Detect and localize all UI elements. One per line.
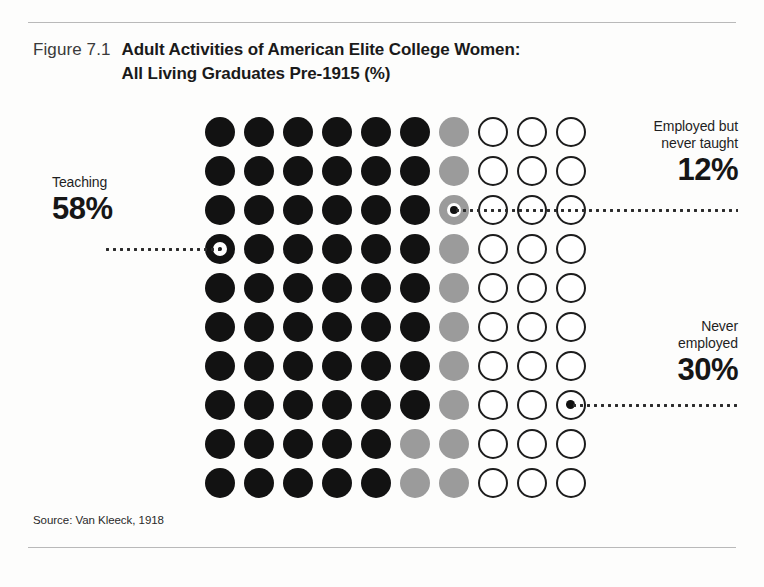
dot-cell [400,429,439,468]
dot-empty [478,429,508,459]
dot-filled [322,156,352,186]
dot-cell [205,234,244,273]
dot-cell [478,195,517,234]
dot-empty [556,156,586,186]
dot-cell [205,117,244,156]
dot-empty [517,117,547,147]
dot-filled [205,195,235,225]
dot-cell [322,273,361,312]
dot-cell [439,195,478,234]
dot-cell [517,468,556,507]
dot-cell [244,195,283,234]
dot-cell [244,390,283,429]
dot-filled [322,429,352,459]
dot-filled [244,390,274,420]
figure-number: Figure 7.1 [33,38,111,62]
dot-cell [322,429,361,468]
dot-filled [283,273,313,303]
dot-cell [400,117,439,156]
dot-cell [439,234,478,273]
dot-empty [517,156,547,186]
dot-cell [439,312,478,351]
dot-filled [283,234,313,264]
dot-filled [205,312,235,342]
dot-partial [400,429,430,459]
dot-filled [244,429,274,459]
dot-filled [400,117,430,147]
dot-cell [244,273,283,312]
dot-cell [517,273,556,312]
dot-filled [361,273,391,303]
dot-empty [517,234,547,264]
leader-line-teaching [104,248,220,251]
dot-filled [361,351,391,381]
figure-container: Figure 7.1 Adult Activities of American … [0,0,764,587]
callout-teaching-value: 58% [52,191,113,227]
callout-employed-value: 12% [598,152,738,188]
dot-cell [556,390,595,429]
dot-cell [556,429,595,468]
dot-empty [478,390,508,420]
dot-cell [439,468,478,507]
dot-cell [517,312,556,351]
dot-cell [244,234,283,273]
dot-filled [283,156,313,186]
dot-filled [244,351,274,381]
dot-filled [361,234,391,264]
dot-partial [439,351,469,381]
dot-cell [361,156,400,195]
dot-cell [283,117,322,156]
source-note: Source: Van Kleeck, 1918 [33,514,164,526]
callout-never-employed: Never employed 30% [598,318,738,388]
dot-cell [361,312,400,351]
dot-cell [400,312,439,351]
dot-filled [283,468,313,498]
leader-line-never-employed [571,404,738,407]
dot-cell [205,468,244,507]
figure-title: Adult Activities of American Elite Colle… [122,38,521,86]
dot-empty [517,312,547,342]
dot-empty [556,117,586,147]
dot-cell [205,390,244,429]
dot-partial [439,468,469,498]
dot-filled [361,429,391,459]
dot-cell [439,156,478,195]
dot-filled [283,390,313,420]
dot-filled [205,156,235,186]
dot-empty [517,351,547,381]
dot-filled [400,156,430,186]
dot-cell [322,117,361,156]
dot-empty [478,273,508,303]
dot-cell [400,351,439,390]
dot-partial [439,117,469,147]
dot-filled [322,390,352,420]
dot-cell [556,273,595,312]
dot-filled [361,468,391,498]
dot-filled [283,351,313,381]
dot-cell [478,273,517,312]
dot-filled [322,312,352,342]
dot-cell [322,351,361,390]
dot-filled [205,468,235,498]
callout-employed-never-taught: Employed but never taught 12% [598,118,738,188]
dot-partial [400,468,430,498]
dot-filled [400,195,430,225]
dot-cell [361,429,400,468]
dot-cell [478,117,517,156]
callout-never-employed-caption-line-1: Never [598,318,738,335]
dot-cell [361,468,400,507]
dot-cell [400,468,439,507]
dot-filled [283,195,313,225]
dot-cell [517,156,556,195]
dot-cell [556,312,595,351]
dot-cell [322,390,361,429]
dot-cell [361,390,400,429]
dot-cell [439,273,478,312]
dot-cell [478,429,517,468]
dot-cell [439,117,478,156]
dot-empty [556,351,586,381]
dot-filled [400,234,430,264]
dot-empty [517,429,547,459]
dot-filled [361,312,391,342]
callout-never-employed-value: 30% [598,352,738,388]
